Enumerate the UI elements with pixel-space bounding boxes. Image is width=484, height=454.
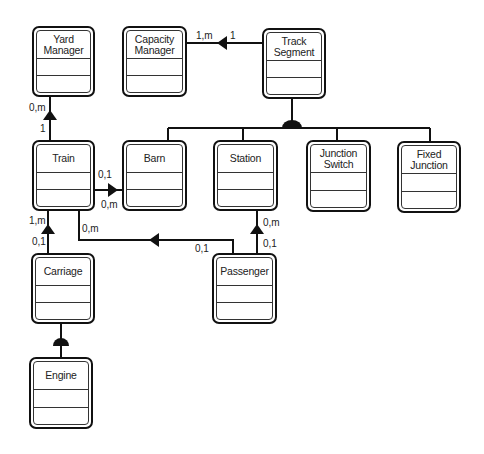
- class-train[interactable]: Train: [32, 140, 95, 211]
- arrow-left-train: [149, 233, 159, 247]
- class-operations: [267, 78, 321, 94]
- mult-yard-train-top: 0,m: [29, 103, 46, 113]
- class-operations: [218, 190, 273, 206]
- class-attributes: [218, 173, 273, 190]
- arrow-right-barn: [108, 183, 118, 197]
- class-passenger[interactable]: Passenger: [212, 253, 277, 324]
- class-attributes: [311, 173, 366, 191]
- arrow-left-capacity: [217, 36, 227, 50]
- class-operations: [127, 190, 182, 206]
- mult-train-carriage-bottom: 0,1: [32, 237, 46, 247]
- mult-train-passenger-passenger: 0,1: [195, 244, 209, 254]
- class-engine[interactable]: Engine: [29, 357, 93, 429]
- gen-half-circle-carriage: [53, 338, 69, 346]
- class-name: Yard Manager: [37, 31, 90, 59]
- class-name: Capacity Manager: [127, 31, 182, 59]
- class-name: Junction Switch: [311, 145, 366, 173]
- class-attributes: [127, 59, 182, 76]
- class-operations: [217, 303, 272, 319]
- class-name: Barn: [127, 145, 182, 173]
- class-capacity-manager[interactable]: Capacity Manager: [122, 26, 187, 97]
- class-name: Engine: [34, 362, 88, 390]
- mult-barn-bottom: 0,m: [101, 200, 118, 210]
- class-operations: [36, 303, 90, 319]
- class-name: Track Segment: [267, 33, 321, 61]
- class-name: Carriage: [36, 258, 90, 286]
- mult-station-passenger-top: 0,m: [263, 218, 280, 228]
- class-attributes: [217, 286, 272, 303]
- mult-barn-top: 0,1: [98, 170, 112, 180]
- class-barn[interactable]: Barn: [122, 140, 187, 211]
- class-station[interactable]: Station: [213, 140, 278, 211]
- class-operations: [311, 191, 366, 207]
- mult-station-passenger-bottom: 0,1: [263, 239, 277, 249]
- class-name: Train: [37, 145, 90, 173]
- class-attributes: [36, 286, 90, 303]
- class-attributes: [267, 61, 321, 78]
- class-carriage[interactable]: Carriage: [31, 253, 95, 324]
- gen-half-circle-track: [282, 120, 302, 128]
- mult-capacity-near: 1,m: [196, 31, 213, 41]
- class-yard-manager[interactable]: Yard Manager: [32, 26, 95, 97]
- class-junction-switch[interactable]: Junction Switch: [306, 140, 371, 212]
- class-operations: [402, 192, 456, 208]
- class-attributes: [37, 59, 90, 76]
- class-name: Station: [218, 145, 273, 173]
- arrow-up-station: [250, 224, 264, 234]
- class-name: Fixed Junction: [402, 146, 456, 174]
- class-operations: [34, 408, 88, 424]
- mult-yard-train-bottom: 1: [40, 124, 46, 134]
- class-attributes: [127, 173, 182, 190]
- class-operations: [127, 76, 182, 92]
- class-attributes: [34, 390, 88, 408]
- assoc-passenger-train: [79, 210, 233, 253]
- class-track-segment[interactable]: Track Segment: [262, 28, 326, 99]
- class-attributes: [402, 174, 456, 192]
- class-operations: [37, 190, 90, 206]
- mult-train-passenger-train: 0,m: [82, 224, 99, 234]
- class-operations: [37, 76, 90, 92]
- class-fixed-junction[interactable]: Fixed Junction: [397, 141, 461, 213]
- mult-train-carriage-top: 1,m: [29, 216, 46, 226]
- class-attributes: [37, 173, 90, 190]
- mult-capacity-far: 1: [230, 31, 236, 41]
- class-name: Passenger: [217, 258, 272, 286]
